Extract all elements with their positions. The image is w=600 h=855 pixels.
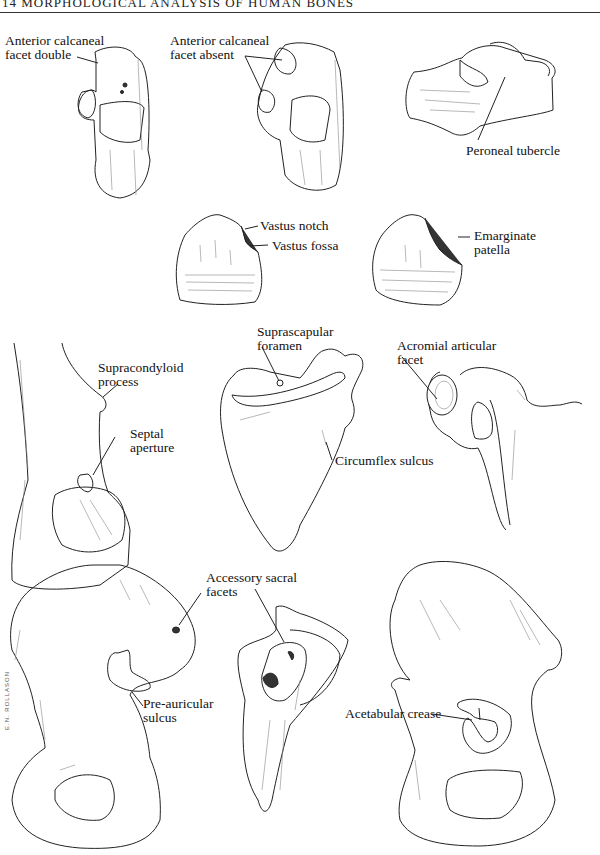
label-line: Circumflex sulcus	[335, 454, 434, 468]
label-circumflex-sulcus: Circumflex sulcus	[335, 454, 434, 468]
label-acromial-articular-facet: Acromial articular facet	[397, 339, 496, 367]
label-line: Pre-auricular	[143, 697, 213, 711]
label-vastus-notch: Vastus notch	[260, 219, 329, 233]
label-anterior-calcaneal-facet-double: Anterior calcaneal facet double	[5, 34, 104, 62]
scapula-posterior-drawing	[221, 347, 363, 551]
label-line: Suprascapular	[257, 325, 333, 339]
artist-signature: E.N. ROLLASON	[4, 671, 10, 730]
label-pre-auricular-sulcus: Pre-auricular sulcus	[143, 697, 213, 725]
label-line: Peroneal tubercle	[466, 144, 560, 158]
label-septal-aperture: Septal aperture	[130, 427, 174, 455]
label-line: Anterior calcaneal	[170, 34, 269, 48]
label-line: process	[98, 375, 184, 389]
label-line: Acetabular crease	[345, 707, 441, 721]
label-line: Septal	[130, 427, 174, 441]
label-line: Vastus notch	[260, 219, 329, 233]
label-vastus-fossa: Vastus fossa	[272, 239, 338, 253]
os-coxae-drawing	[390, 561, 562, 846]
talus-double-facet-drawing	[77, 47, 150, 198]
label-line: Anterior calcaneal	[5, 34, 104, 48]
label-line: Vastus fossa	[272, 239, 338, 253]
label-line: facet double	[5, 48, 104, 62]
label-line: Acromial articular	[397, 339, 496, 353]
patella-emarginate-drawing	[373, 215, 470, 305]
scapula-lateral-drawing	[402, 357, 582, 530]
label-line: facets	[206, 585, 297, 599]
label-line: aperture	[130, 441, 174, 455]
label-peroneal-tubercle: Peroneal tubercle	[466, 144, 560, 158]
label-line: Emarginate	[474, 229, 536, 243]
label-line: facet absent	[170, 48, 269, 62]
label-anterior-calcaneal-facet-absent: Anterior calcaneal facet absent	[170, 34, 269, 62]
label-line: foramen	[257, 339, 333, 353]
label-line: Accessory sacral	[206, 571, 297, 585]
label-acetabular-crease: Acetabular crease	[345, 707, 441, 721]
label-accessory-sacral-facets: Accessory sacral facets	[206, 571, 297, 599]
label-line: Supracondyloid	[98, 361, 184, 375]
bone-illustrations	[0, 0, 600, 855]
label-line: facet	[397, 353, 496, 367]
label-line: sulcus	[143, 711, 213, 725]
calcaneus-drawing	[406, 42, 555, 140]
label-line: patella	[474, 243, 536, 257]
sacrum-drawing	[238, 589, 348, 811]
label-supracondyloid-process: Supracondyloid process	[98, 361, 184, 389]
label-emarginate-patella: Emarginate patella	[474, 229, 536, 257]
label-suprascapular-foramen: Suprascapular foramen	[257, 325, 333, 353]
talus-absent-facet-drawing	[245, 43, 343, 190]
